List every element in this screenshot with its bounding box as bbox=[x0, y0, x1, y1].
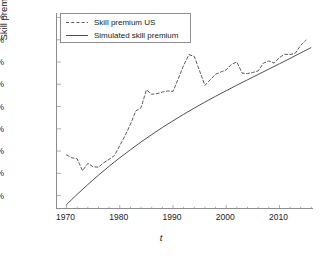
legend-label: Skill premium US bbox=[94, 16, 155, 29]
y-tick-label: 130% bbox=[0, 12, 4, 22]
x-tick-label: 1990 bbox=[163, 212, 182, 222]
y-tick-label: 60% bbox=[0, 168, 4, 178]
y-tick-label: 120% bbox=[0, 35, 4, 45]
x-tick-label: 2000 bbox=[216, 212, 235, 222]
x-tick-label: 2010 bbox=[269, 212, 288, 222]
legend: Skill premium US Simulated skill premium bbox=[60, 13, 191, 43]
axis-ticks bbox=[57, 17, 311, 209]
x-tick-label: 1980 bbox=[109, 212, 128, 222]
skill-premium-chart: Skill premium 130% 120% 110% 100% 90% 80… bbox=[0, 0, 322, 258]
x-axis-title: t bbox=[0, 232, 322, 243]
y-tick-label: 50% bbox=[0, 191, 4, 201]
x-tick-label: 1970 bbox=[56, 212, 75, 222]
y-tick-label: 80% bbox=[0, 124, 4, 134]
y-tick-label: 70% bbox=[0, 146, 4, 156]
series-line-simulated bbox=[67, 48, 311, 205]
y-tick-label: 90% bbox=[0, 102, 4, 112]
solid-line-icon bbox=[65, 31, 89, 40]
y-tick-label: 110% bbox=[0, 57, 4, 67]
legend-entry-skill-premium-us: Skill premium US bbox=[61, 16, 190, 29]
series-line-skill-premium-us bbox=[67, 40, 306, 171]
legend-entry-simulated-skill-premium: Simulated skill premium bbox=[61, 29, 190, 42]
legend-label: Simulated skill premium bbox=[94, 29, 178, 42]
dashed-line-icon bbox=[65, 18, 89, 27]
y-tick-label: 100% bbox=[0, 79, 4, 89]
